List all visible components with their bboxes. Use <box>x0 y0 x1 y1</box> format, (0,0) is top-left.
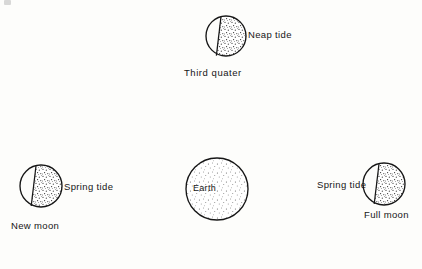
third-quarter-moon-glyph <box>206 14 248 58</box>
scan-artifact-mark <box>4 0 11 5</box>
new-moon-glyph <box>20 163 64 210</box>
neap-tide-label: Neap tide <box>248 29 292 40</box>
spring-tide-label-right: Spring tide <box>317 179 366 190</box>
third-quarter-moon-label: Third quater <box>184 67 242 78</box>
full-moon-label: Full moon <box>364 209 409 220</box>
full-moon-glyph <box>363 161 407 208</box>
new-moon-label: New moon <box>11 220 59 231</box>
earth-label: Earth <box>193 183 216 194</box>
spring-tide-label-left: Spring tide <box>64 181 113 192</box>
tide-diagram-canvas <box>0 0 422 269</box>
